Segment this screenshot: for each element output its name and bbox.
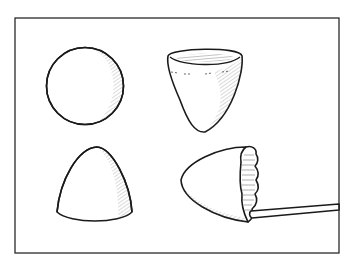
shapes-illustration bbox=[0, 0, 354, 270]
